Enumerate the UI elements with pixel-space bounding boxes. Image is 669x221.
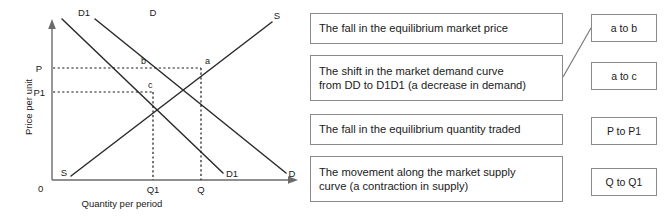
x-tick-q: Q (197, 184, 204, 195)
point-label-b: b (141, 56, 146, 66)
curve-label-d1-top: D1 (78, 7, 90, 18)
statement-text-2: The shift in the market demand curve fro… (319, 64, 526, 93)
answer-box-q-to-q1[interactable]: Q to Q1 (591, 168, 657, 196)
curve-label-d-bottom: D (289, 168, 296, 179)
answer-text-p-to-p1: P to P1 (607, 125, 641, 137)
chart-axes (48, 19, 298, 184)
statement-text-4: The movement along the market supply cur… (319, 165, 516, 194)
statement-box-1[interactable]: The fall in the equilibrium market price (310, 13, 563, 44)
chart-guidelines (53, 68, 201, 180)
answer-text-a-to-c: a to c (611, 70, 637, 82)
statement-box-2[interactable]: The shift in the market demand curve fro… (310, 55, 563, 101)
connector-line-statement2-to-answer1 (563, 28, 591, 77)
y-axis-arrow-icon (48, 19, 56, 29)
demand-curve-d1d1 (62, 19, 223, 173)
curve-label-s-bottom: S (61, 167, 67, 178)
statements-panel: The fall in the equilibrium market price… (310, 0, 669, 221)
statement-box-4[interactable]: The movement along the market supply cur… (310, 156, 563, 202)
statement-box-3[interactable]: The fall in the equilibrium quantity tra… (310, 114, 563, 145)
x-tick-q1: Q1 (147, 184, 160, 195)
point-label-a: a (205, 56, 210, 66)
supply-curve-ss (71, 22, 272, 176)
answer-box-a-to-c[interactable]: a to c (591, 62, 657, 90)
answer-text-a-to-b: a to b (611, 22, 637, 34)
origin-label: 0 (38, 183, 43, 194)
curve-label-d1-bottom: D1 (226, 168, 238, 179)
answer-text-q-to-q1: Q to Q1 (606, 176, 643, 188)
statement-text-3: The fall in the equilibrium quantity tra… (319, 122, 521, 137)
curve-label-d-top: D (150, 7, 157, 18)
y-tick-p: P (36, 63, 42, 74)
chart-curves (62, 19, 286, 176)
supply-demand-chart: Price per unit Quantity per period 0 P P… (0, 0, 305, 221)
y-tick-p1: P1 (33, 87, 45, 98)
y-axis-title: Price per unit (23, 79, 34, 135)
x-axis-title: Quantity per period (82, 198, 163, 209)
point-label-c: c (148, 80, 153, 90)
statement-text-1: The fall in the equilibrium market price (319, 21, 508, 36)
demand-curve-dd (95, 19, 286, 173)
answer-box-a-to-b[interactable]: a to b (591, 14, 657, 42)
diagram-matching-exercise: Price per unit Quantity per period 0 P P… (0, 0, 669, 221)
answer-box-p-to-p1[interactable]: P to P1 (591, 117, 657, 145)
curve-label-s-top: S (274, 10, 280, 21)
